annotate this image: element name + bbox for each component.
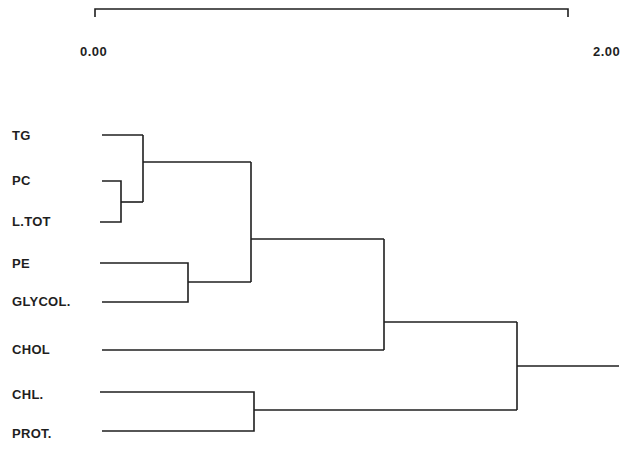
branch-chl-prot (100, 392, 254, 431)
scale-bar (95, 9, 568, 17)
leaf-label-tg: TG (12, 128, 31, 143)
leaf-label-pc: PC (12, 173, 31, 188)
branch-pc (100, 181, 121, 222)
leaf-label-pe: PE (12, 256, 30, 271)
branch-pe-glycol (100, 263, 188, 302)
leaf-label-glycol: GLYCOL. (12, 294, 71, 309)
dendrogram-svg (0, 0, 641, 458)
leaf-label-prot: PROT. (12, 426, 52, 441)
leaf-label-chol: CHOL (12, 342, 50, 357)
leaf-label-ltot: L.TOT (12, 214, 51, 229)
axis-max-label: 2.00 (593, 44, 620, 59)
leaf-label-chl: CHL. (12, 387, 44, 402)
axis-min-label: 0.00 (80, 44, 107, 59)
